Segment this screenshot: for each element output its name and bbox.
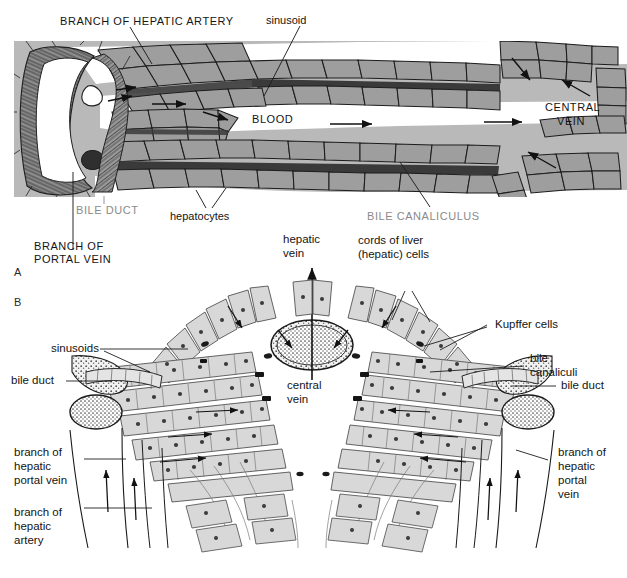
label-branch-hepatic-portal-vein-right-line2: hepatic bbox=[558, 460, 595, 473]
label-sinusoids: sinusoids bbox=[51, 342, 99, 355]
label-branch-of-hepatic-artery: BRANCH OF HEPATIC ARTERY bbox=[60, 15, 234, 28]
label-bile-canaliculi-line2: canaliculi bbox=[530, 366, 577, 379]
label-branch-hepatic-portal-vein-left-line1: branch of bbox=[14, 446, 62, 459]
figure-root: A B BRANCH OF HEPATIC ARTERY sinusoid BL… bbox=[0, 0, 627, 578]
panel-label-a: A bbox=[14, 266, 21, 279]
label-branch-hepatic-artery-left-line3: artery bbox=[14, 534, 43, 547]
label-branch-of-portal-vein-line1: BRANCH OF bbox=[34, 240, 104, 253]
label-bile-duct-b-right: bile duct bbox=[561, 379, 604, 392]
panel-label-b: B bbox=[14, 296, 21, 309]
label-kupffer-cells: Kupffer cells bbox=[495, 318, 558, 331]
label-hepatic-vein-line2: vein bbox=[283, 247, 304, 260]
label-branch-hepatic-portal-vein-left-line2: hepatic bbox=[14, 460, 51, 473]
label-branch-hepatic-portal-vein-right-line1: branch of bbox=[558, 446, 606, 459]
label-sinusoid: sinusoid bbox=[266, 14, 306, 27]
label-central-vein-b-line1: central bbox=[287, 379, 322, 392]
label-branch-of-portal-vein-line2: PORTAL VEIN bbox=[34, 253, 111, 266]
label-bile-canaliculus: BILE CANALICULUS bbox=[367, 210, 480, 223]
label-central-vein-line1: CENTRAL bbox=[545, 101, 600, 114]
label-central-vein-b-line2: vein bbox=[287, 393, 308, 406]
label-bile-duct-a: BILE DUCT bbox=[76, 204, 138, 217]
label-branch-hepatic-portal-vein-right-line4: vein bbox=[558, 488, 579, 501]
label-bile-canaliculi-line1: bile bbox=[530, 352, 548, 365]
label-bile-duct-b-left: bile duct bbox=[11, 374, 54, 387]
label-cords-of-liver-line1: cords of liver bbox=[358, 234, 423, 247]
label-branch-hepatic-portal-vein-left-line3: portal vein bbox=[14, 474, 67, 487]
label-branch-hepatic-artery-left-line1: branch of bbox=[14, 506, 62, 519]
label-cords-of-liver-line2: (hepatic) cells bbox=[358, 248, 429, 261]
label-branch-hepatic-artery-left-line2: hepatic bbox=[14, 520, 51, 533]
label-hepatocytes: hepatocytes bbox=[170, 210, 229, 223]
label-hepatic-vein-line1: hepatic bbox=[283, 233, 320, 246]
label-blood: BLOOD bbox=[252, 113, 293, 126]
label-central-vein-line2: VEIN bbox=[557, 115, 585, 128]
panel-a-artwork bbox=[0, 0, 627, 578]
panel-b-artwork bbox=[66, 268, 556, 552]
label-branch-hepatic-portal-vein-right-line3: portal bbox=[558, 474, 587, 487]
